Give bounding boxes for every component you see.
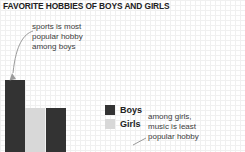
legend-swatch-girls xyxy=(105,119,115,129)
bar-music-boys xyxy=(46,108,66,152)
bar-sports-girls xyxy=(25,108,45,152)
annotation-sports-note: sports is most popular hobby among boys xyxy=(32,22,83,52)
bar-sports-boys xyxy=(5,80,25,152)
legend-swatch-boys xyxy=(105,105,115,115)
chart-legend: Boys Girls xyxy=(105,103,142,131)
legend-label-boys: Boys xyxy=(120,105,142,115)
legend-item-girls: Girls xyxy=(105,117,142,131)
annotation-music-note: among girls, music is least popular hobb… xyxy=(148,112,199,142)
chart-container: FAVORITE HOBBIES OF BOYS AND GIRLS sport… xyxy=(0,0,245,152)
legend-label-girls: Girls xyxy=(120,119,141,129)
legend-item-boys: Boys xyxy=(105,103,142,117)
